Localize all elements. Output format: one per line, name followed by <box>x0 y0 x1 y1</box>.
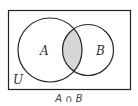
set-b-label: B <box>95 44 105 58</box>
set-a-label: A <box>39 44 49 58</box>
venn-diagram: A B U A ∩ B <box>0 0 138 106</box>
universe-label: U <box>13 73 24 87</box>
caption: A ∩ B <box>54 93 83 104</box>
